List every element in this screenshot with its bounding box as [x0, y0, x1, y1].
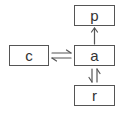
equilibrium-c-a-icon [52, 50, 71, 61]
equilibrium-a-r-icon [89, 69, 100, 82]
arrow-a-to-p-icon [92, 28, 98, 44]
edges-layer [0, 0, 123, 114]
